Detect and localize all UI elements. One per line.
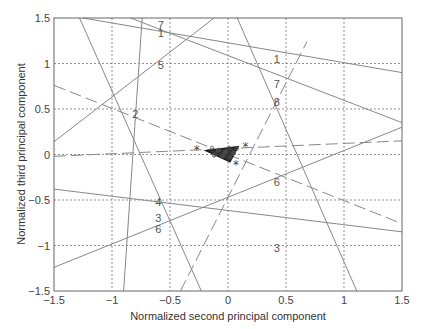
line-label: 3 (274, 242, 280, 254)
line-label: 8 (274, 96, 280, 108)
x-tick-label: −1 (106, 294, 119, 306)
chart: *** 711578264363 −1.5−1−0.500.511.5 1.51… (0, 0, 421, 329)
line-label: 7 (274, 78, 280, 90)
x-tick-label: 1 (341, 294, 347, 306)
series-line-7 (131, 18, 402, 123)
x-axis-label: Normalized second principal component (130, 310, 326, 322)
x-tick-label: 0.5 (278, 294, 293, 306)
x-tick-label: 0 (225, 294, 231, 306)
y-tick-label: 0.5 (35, 103, 50, 115)
y-axis-ticks: 1.510.50−0.5−1−1.5 (28, 12, 50, 297)
line-label: 6 (155, 223, 161, 235)
line-label: 2 (132, 108, 138, 120)
line-label: 1 (158, 27, 164, 39)
y-tick-label: 1 (44, 58, 50, 70)
line-label: 6 (274, 176, 280, 188)
y-tick-label: −1.5 (28, 285, 50, 297)
star-marker: * (233, 158, 239, 172)
y-tick-label: 0 (44, 149, 50, 161)
line-label: 4 (155, 196, 161, 208)
line-label: 1 (274, 53, 280, 65)
y-tick-label: 1.5 (35, 12, 50, 24)
star-marker: * (194, 143, 200, 157)
line-labels: 711578264363 (132, 19, 280, 254)
x-tick-label: 1.5 (394, 294, 409, 306)
x-tick-label: −0.5 (159, 294, 181, 306)
line-label: 5 (158, 59, 164, 71)
x-axis-ticks: −1.5−1−0.500.511.5 (43, 294, 410, 306)
y-tick-label: −0.5 (28, 194, 50, 206)
y-tick-label: −1 (37, 240, 50, 252)
star-marker: * (242, 140, 248, 154)
y-axis-label: Normalized third principal component (15, 63, 27, 245)
series-line-1 (83, 18, 402, 73)
